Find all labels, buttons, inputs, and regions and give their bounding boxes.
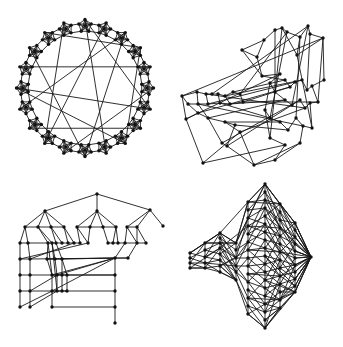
graph-node	[140, 90, 143, 93]
graph-node	[278, 274, 281, 277]
graph-edge	[307, 34, 310, 90]
graph-node	[136, 65, 139, 68]
graph-edge	[248, 264, 265, 266]
graph-node	[316, 100, 319, 103]
graph-node	[255, 55, 258, 58]
graph-edge	[57, 258, 115, 275]
graph-node	[152, 86, 155, 89]
graph-edge	[270, 138, 285, 145]
graph-edge	[248, 274, 280, 276]
graph-node	[65, 289, 68, 292]
graph-node	[21, 100, 24, 103]
graph-node	[35, 117, 38, 120]
graph-node	[133, 123, 136, 126]
graph-edge	[295, 230, 311, 257]
graph-node	[301, 124, 304, 127]
graph-node	[40, 123, 43, 126]
graph-node	[220, 141, 223, 144]
graph-node	[223, 120, 226, 123]
graph-edge	[88, 227, 90, 243]
graph-node	[19, 80, 22, 83]
graph-node	[77, 150, 80, 153]
graph-node	[218, 236, 221, 239]
graph-node	[139, 46, 142, 49]
graph-node	[35, 44, 38, 47]
graph-edge	[38, 227, 52, 243]
graph-node	[28, 289, 31, 292]
graph-node	[21, 72, 24, 75]
graph-node	[109, 145, 112, 148]
graph-node	[60, 241, 63, 244]
graph-node	[41, 134, 44, 137]
graph-node	[218, 258, 221, 261]
graph-node	[196, 111, 199, 114]
graph-node	[18, 305, 21, 308]
graph-node	[147, 80, 150, 83]
graph-node	[135, 225, 138, 228]
graph-node	[260, 74, 263, 77]
graph-node	[263, 262, 266, 265]
graph-node	[310, 126, 313, 129]
graph-node	[120, 130, 123, 133]
graph-node	[305, 88, 308, 91]
graph-edge	[188, 104, 198, 113]
graph-node	[102, 27, 105, 30]
graph-node	[263, 326, 266, 329]
graph-node	[65, 273, 68, 276]
graph-edge	[254, 160, 275, 165]
graph-node	[147, 92, 150, 95]
graph-node	[24, 67, 27, 70]
graph-edge	[56, 243, 62, 259]
graph-node	[263, 214, 266, 217]
graph-edge	[248, 248, 265, 250]
graph-node	[218, 241, 221, 244]
graph-node	[131, 129, 134, 132]
graph-node	[268, 116, 271, 119]
graph-node	[293, 228, 296, 231]
graph-node	[233, 123, 236, 126]
graph-edge	[295, 257, 311, 279]
graph-node	[124, 31, 127, 34]
graph-node	[283, 98, 286, 101]
graph-node	[18, 107, 21, 110]
graph-node	[113, 305, 116, 308]
graph-node	[203, 261, 206, 264]
graph-node	[104, 151, 107, 154]
graph-edge	[20, 243, 88, 259]
graph-node	[146, 72, 149, 75]
graph-edge	[248, 184, 265, 202]
graph-node	[40, 50, 43, 53]
graph-node	[138, 100, 141, 103]
graph-node	[203, 266, 206, 269]
graph-node	[184, 117, 187, 120]
graph-node	[125, 225, 128, 228]
graph-node	[263, 108, 266, 111]
graph-node	[218, 270, 221, 273]
graph-node	[50, 273, 53, 276]
graph-node	[58, 27, 61, 30]
graph-node	[234, 264, 237, 267]
graph-node	[273, 90, 276, 93]
graph-node	[18, 273, 21, 276]
graph-edge	[25, 211, 45, 227]
graph-node	[113, 273, 116, 276]
circular-layout-panel	[15, 18, 155, 158]
graph-node	[246, 304, 249, 307]
graph-node	[113, 289, 116, 292]
graph-node	[246, 200, 249, 203]
graph-node	[263, 206, 266, 209]
graph-edge	[205, 260, 220, 263]
graph-node	[15, 86, 18, 89]
graph-node	[51, 31, 54, 34]
graph-edge	[248, 256, 265, 258]
graph-node	[95, 192, 98, 195]
graph-node	[263, 270, 266, 273]
graph-node	[69, 149, 72, 152]
graph-node	[49, 225, 52, 228]
graph-node	[27, 90, 30, 93]
graph-node	[278, 72, 281, 75]
graph-edge	[208, 118, 225, 122]
graph-edge	[312, 86, 318, 102]
graph-node	[47, 43, 50, 46]
graph-node	[278, 242, 281, 245]
